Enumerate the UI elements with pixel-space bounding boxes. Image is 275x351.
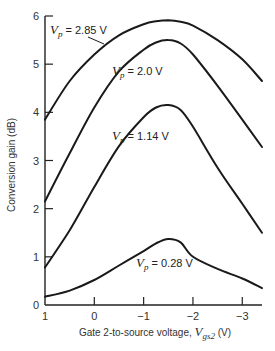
x-tick-label: 1 <box>42 310 48 322</box>
series-label-value: = 2.85 V <box>62 24 107 36</box>
x-axis-label-unit: (V) <box>215 327 231 338</box>
y-axis-label: Conversion gain (dB) <box>6 118 17 212</box>
x-tick-label: −1 <box>137 310 150 322</box>
x-axis-label: Gate 2-to-source voltage, Vgs2 (V) <box>79 324 231 341</box>
y-tick-label: 6 <box>33 10 39 22</box>
y-tick-label: 3 <box>33 155 39 167</box>
x-tick-label: −2 <box>187 310 200 322</box>
y-tick-label: 1 <box>33 251 39 263</box>
y-tick-label: 2 <box>33 203 39 215</box>
y-ticks: 0123456 <box>33 10 53 311</box>
x-tick-label: −3 <box>236 310 249 322</box>
x-axis-label-sub: gs2 <box>202 331 215 341</box>
label-leader-line <box>88 37 104 44</box>
series-label-vp-0-28: Vp = 0.28 V <box>136 255 193 272</box>
series-labels: Vp = 2.85 VVp = 2.0 VVp = 1.14 VVp = 0.2… <box>50 22 193 272</box>
x-tick-label: 0 <box>91 310 97 322</box>
series-label-vp-2-85: Vp = 2.85 V <box>50 22 107 39</box>
series-label-vp-1-14: Vp = 1.14 V <box>112 128 169 145</box>
y-tick-label: 5 <box>33 58 39 70</box>
y-tick-label: 4 <box>33 106 39 118</box>
x-ticks: 10−1−2−3 <box>42 297 249 322</box>
x-axis-label-prefix: Gate 2-to-source voltage, <box>79 327 195 338</box>
conversion-gain-chart: 0123456 10−1−2−3 Vp = 2.85 VVp = 2.0 VVp… <box>0 0 275 351</box>
y-tick-label: 0 <box>33 299 39 311</box>
series-label-value: = 1.14 V <box>124 130 169 142</box>
series-label-value: = 2.0 V <box>124 65 163 77</box>
curves <box>45 20 262 297</box>
series-label-vp-2-0: Vp = 2.0 V <box>112 63 163 80</box>
series-label-value: = 0.28 V <box>148 257 193 269</box>
